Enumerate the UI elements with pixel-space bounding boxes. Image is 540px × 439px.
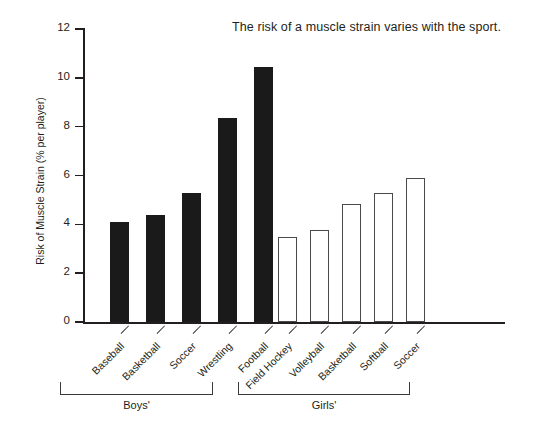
bar xyxy=(110,222,129,322)
y-axis-tick-label: 10 xyxy=(44,70,70,82)
bar xyxy=(342,204,361,322)
x-axis-tick xyxy=(120,325,129,334)
bar xyxy=(406,178,425,322)
y-axis-tick xyxy=(75,126,84,127)
bar xyxy=(374,193,393,322)
x-axis-line xyxy=(83,322,505,324)
y-axis-tick-label: 12 xyxy=(44,21,70,33)
y-axis-tick-label: 0 xyxy=(44,314,70,326)
y-axis-tick xyxy=(75,28,84,29)
bar xyxy=(278,237,297,322)
y-axis-tick xyxy=(75,321,84,322)
bar xyxy=(310,230,329,322)
chart-title: The risk of a muscle strain varies with … xyxy=(232,20,532,34)
x-axis-tick xyxy=(156,325,165,334)
y-axis-tick-label: 8 xyxy=(44,119,70,131)
x-axis-tick xyxy=(352,325,361,334)
y-axis-tick-label: 6 xyxy=(44,168,70,180)
x-axis-tick xyxy=(416,325,425,334)
x-axis-tick xyxy=(288,325,297,334)
group-bracket xyxy=(238,382,410,395)
x-axis-tick xyxy=(384,325,393,334)
bar xyxy=(254,67,273,322)
group-bracket xyxy=(60,382,213,395)
bar-chart: The risk of a muscle strain varies with … xyxy=(0,0,540,439)
group-bracket-label: Girls' xyxy=(238,399,410,411)
x-axis-tick xyxy=(192,325,201,334)
y-axis-tick xyxy=(75,77,84,78)
bar xyxy=(218,118,237,322)
y-axis-tick-label: 4 xyxy=(44,216,70,228)
y-axis-tick xyxy=(75,224,84,225)
x-axis-tick xyxy=(228,325,237,334)
y-axis-tick-label: 2 xyxy=(44,265,70,277)
y-axis-tick xyxy=(75,175,84,176)
group-bracket-label: Boys' xyxy=(60,399,213,411)
x-axis-tick xyxy=(264,325,273,334)
bar xyxy=(182,193,201,322)
x-axis-tick xyxy=(320,325,329,334)
bar xyxy=(146,215,165,322)
y-axis-tick xyxy=(75,272,84,273)
